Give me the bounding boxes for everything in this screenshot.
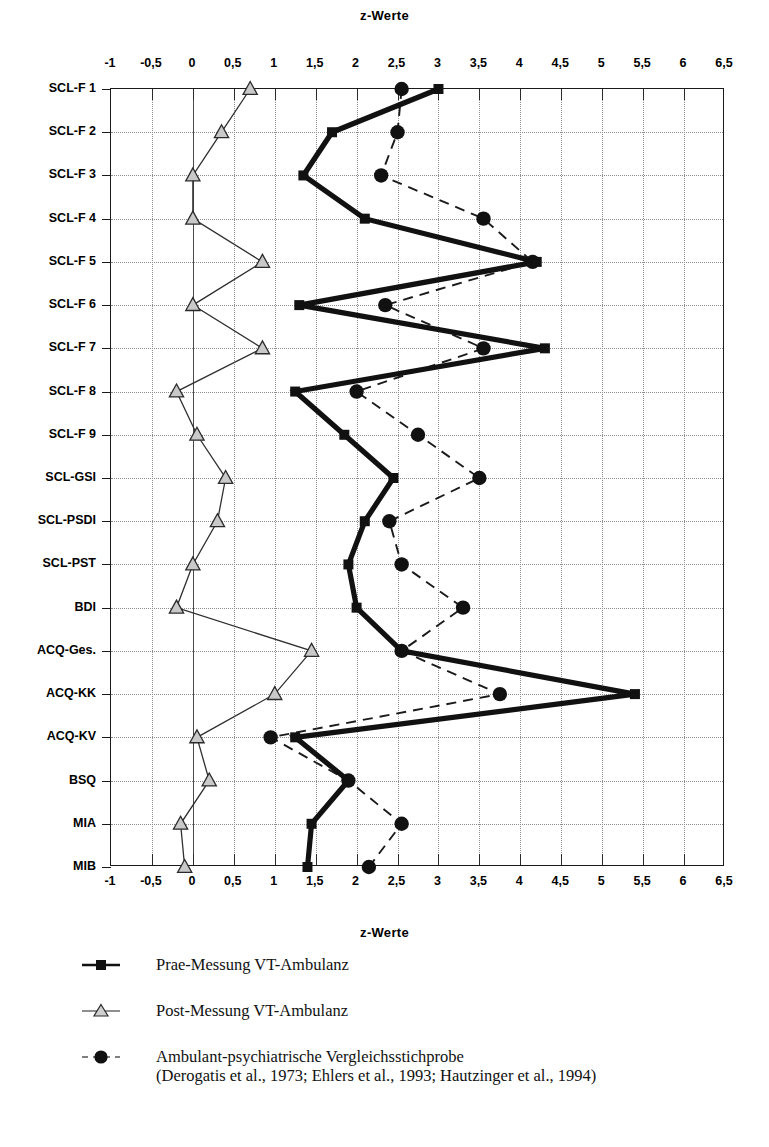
data-point-triangle [186, 298, 200, 311]
data-point-triangle [190, 427, 204, 440]
x-axis-tick-label: 4,5 [552, 56, 569, 70]
series-2 [169, 82, 318, 873]
plot-area [110, 88, 724, 866]
legend-item: Prae-Messung VT-Ambulanz [78, 955, 738, 977]
y-axis-tick-label: ACQ-Ges. [0, 643, 96, 657]
y-axis-tick-label: ACQ-KK [0, 686, 96, 700]
x-axis-tick-label: 6 [680, 874, 687, 888]
data-point-triangle [178, 860, 192, 873]
data-point-square [360, 214, 370, 224]
y-axis-tick-label: SCL-F 6 [0, 297, 96, 311]
data-point-triangle [173, 816, 187, 829]
x-axis-tick-label: 0 [188, 874, 195, 888]
x-axis-tick-label: 3 [434, 874, 441, 888]
legend-label: Prae-Messung VT-Ambulanz [156, 955, 738, 974]
y-tick [102, 348, 111, 349]
data-point-triangle [190, 730, 204, 743]
y-tick [102, 737, 111, 738]
data-point-circle [476, 211, 490, 225]
y-tick [102, 608, 111, 609]
data-point-square [298, 170, 308, 180]
data-point-square [290, 732, 300, 742]
y-axis-tick-label: SCL-GSI [0, 470, 96, 484]
data-point-square [433, 84, 443, 94]
y-tick [102, 219, 111, 220]
x-axis-tick-label: 5,5 [633, 874, 650, 888]
x-axis-tick-label: 2,5 [388, 874, 405, 888]
x-axis-tick-label: 5,5 [633, 56, 650, 70]
x-axis-tick-label: 1,5 [306, 874, 323, 888]
x-axis-tick-label: 5 [598, 874, 605, 888]
legend-label-line1: Prae-Messung VT-Ambulanz [156, 955, 738, 974]
data-point-circle [378, 298, 392, 312]
y-tick [102, 132, 111, 133]
data-point-square [540, 343, 550, 353]
legend-marker-triangle-icon [78, 1002, 124, 1020]
data-point-circle [374, 168, 388, 182]
data-point-circle [382, 514, 396, 528]
legend-label-line1: Post-Messung VT-Ambulanz [156, 1001, 738, 1020]
series-line [176, 89, 311, 867]
data-point-circle [411, 428, 425, 442]
y-axis-tick-label: SCL-F 1 [0, 81, 96, 95]
data-point-square [307, 819, 317, 829]
y-tick [102, 89, 111, 90]
data-point-circle [362, 860, 376, 874]
legend-label: Post-Messung VT-Ambulanz [156, 1001, 738, 1020]
x-axis-tick-label: 1,5 [306, 56, 323, 70]
y-tick [102, 651, 111, 652]
data-point-square [339, 430, 349, 440]
x-axis-tick-label: 2,5 [388, 56, 405, 70]
data-point-circle [456, 600, 470, 614]
legend-label-line2: (Derogatis et al., 1973; Ehlers et al., … [156, 1066, 738, 1085]
y-tick [102, 478, 111, 479]
chart-title-top: z-Werte [0, 8, 769, 23]
x-axis-tick-label: 1 [270, 56, 277, 70]
x-axis-tick-label: 0,5 [224, 874, 241, 888]
chart-legend: Prae-Messung VT-AmbulanzPost-Messung VT-… [78, 955, 738, 1109]
x-axis-tick-label: 2 [352, 56, 359, 70]
data-point-square [327, 127, 337, 137]
y-tick [102, 521, 111, 522]
legend-marker-circle-icon [78, 1048, 124, 1066]
y-axis-tick-label: ACQ-KV [0, 729, 96, 743]
data-point-circle [394, 557, 408, 571]
data-point-square [360, 516, 370, 526]
data-point-square [352, 603, 362, 613]
y-tick [102, 564, 111, 565]
data-point-square [294, 300, 304, 310]
x-axis-tick-label: 3 [434, 56, 441, 70]
x-axis-tick-label: -0,5 [140, 874, 162, 888]
data-point-square [302, 862, 312, 872]
x-axis-tick-label: 6,5 [715, 874, 732, 888]
data-point-square [532, 257, 542, 267]
y-axis-tick-label: SCL-F 3 [0, 167, 96, 181]
data-point-triangle [186, 557, 200, 570]
series-line [295, 89, 635, 867]
y-axis-tick-label: SCL-F 4 [0, 211, 96, 225]
y-axis-tick-label: SCL-F 7 [0, 340, 96, 354]
y-tick [102, 262, 111, 263]
data-point-square [397, 646, 407, 656]
x-axis-tick-label: 3,5 [470, 56, 487, 70]
legend-item: Ambulant-psychiatrische Vergleichsstichp… [78, 1047, 738, 1085]
y-tick [102, 305, 111, 306]
data-point-circle [493, 687, 507, 701]
data-point-triangle [169, 600, 183, 613]
data-point-circle [394, 817, 408, 831]
data-point-triangle [169, 384, 183, 397]
y-axis-tick-label: SCL-F 9 [0, 427, 96, 441]
data-point-circle [390, 125, 404, 139]
y-axis-tick-label: SCL-F 8 [0, 384, 96, 398]
x-axis-tick-label: 0,5 [224, 56, 241, 70]
data-point-circle [263, 730, 277, 744]
data-point-triangle [186, 168, 200, 181]
x-axis-tick-label: 0 [188, 56, 195, 70]
x-axis-tick-label: -0,5 [140, 56, 162, 70]
chart-title-bottom: z-Werte [0, 925, 769, 940]
y-tick [102, 867, 111, 868]
x-axis-tick-label: -1 [104, 874, 115, 888]
x-axis-tick-label: 1 [270, 874, 277, 888]
y-axis-tick-label: BSQ [0, 773, 96, 787]
data-point-square [343, 776, 353, 786]
